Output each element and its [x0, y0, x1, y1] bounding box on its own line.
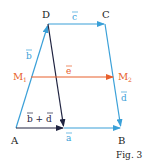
svg-text:e: e [66, 66, 71, 76]
svg-text:M: M [13, 71, 23, 82]
svg-text:b: b [26, 51, 32, 61]
svg-text:M: M [118, 71, 128, 82]
vector-d-translated-arrow [48, 24, 64, 126]
label-vector-a: a [66, 133, 72, 143]
trapezoid-vector-diagram: D C A B M 1 M 2 c b e d a b + d Fig. 3 [0, 0, 145, 162]
svg-text:d: d [121, 93, 127, 103]
label-vector-d: d [121, 92, 127, 103]
label-point-C: C [102, 9, 110, 20]
label-point-M2: M 2 [118, 71, 132, 83]
label-vector-c: c [72, 12, 78, 22]
label-point-A: A [10, 135, 19, 146]
svg-text:2: 2 [128, 76, 132, 83]
label-point-D: D [42, 9, 50, 20]
label-vector-e: e [66, 66, 72, 76]
svg-text:1: 1 [23, 76, 27, 83]
label-vector-b: b [26, 50, 32, 61]
svg-text:a: a [66, 133, 72, 143]
label-point-B: B [118, 135, 125, 146]
svg-text:b + d: b + d [27, 114, 52, 124]
figure-caption: Fig. 3 [116, 150, 143, 160]
label-vector-b-plus-d: b + d [27, 113, 53, 124]
svg-text:c: c [72, 12, 77, 22]
label-point-M1: M 1 [13, 71, 27, 83]
